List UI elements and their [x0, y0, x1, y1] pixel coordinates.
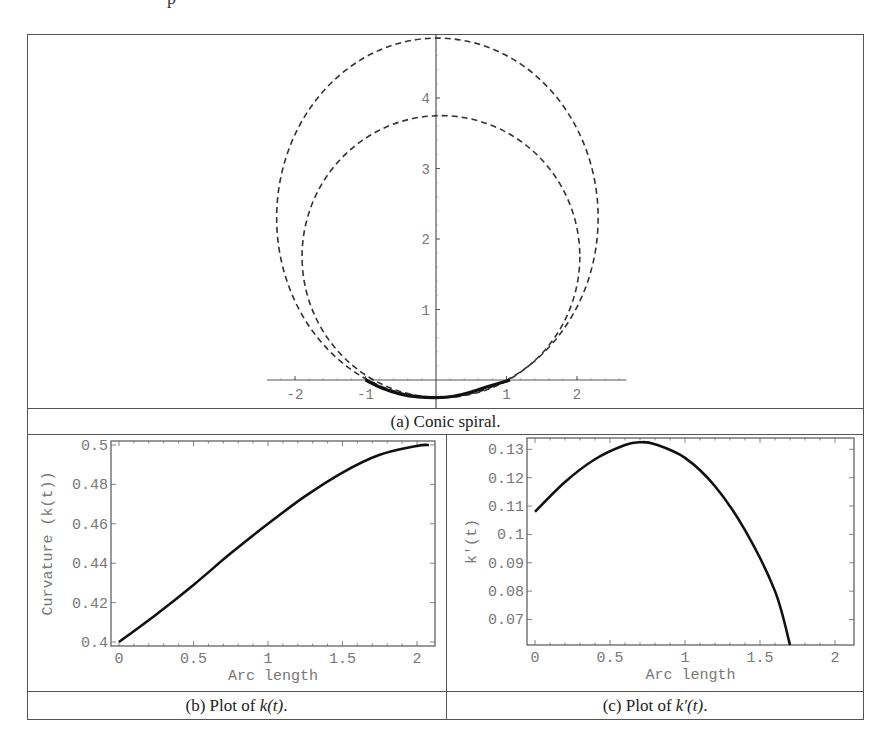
x-tick-label: 1.5 — [746, 650, 773, 667]
plot-frame — [111, 441, 435, 646]
y-tick-label: 0.1 — [497, 527, 524, 544]
x-axis-label: Arc length — [645, 667, 735, 684]
y-tick-label: 0.11 — [488, 499, 524, 516]
y-axis-label: Curvature (k(t)) — [40, 471, 57, 615]
caption-c: (c) Plot of k′(t). — [446, 693, 864, 719]
caption-b-suffix: . — [283, 696, 287, 715]
y-tick-label: 0.46 — [72, 517, 108, 534]
chart-curvature: 00.511.520.40.420.440.460.480.5Arc lengt… — [0, 0, 893, 700]
x-tick-label: 0 — [530, 650, 539, 667]
x-tick-label: 0.5 — [596, 650, 623, 667]
caption-b-prefix: (b) Plot of — [186, 696, 260, 715]
y-axis-label: k′(t) — [464, 519, 481, 564]
plot-frame — [527, 438, 854, 645]
x-tick-label: 0.5 — [180, 651, 207, 668]
y-tick-label: 0.09 — [488, 556, 524, 573]
y-tick-label: 0.4 — [81, 635, 108, 652]
x-tick-label: 1 — [680, 650, 689, 667]
caption-c-prefix: (c) Plot of — [603, 696, 676, 715]
y-tick-label: 0.42 — [72, 596, 108, 613]
y-tick-label: 0.08 — [488, 584, 524, 601]
x-axis-label: Arc length — [228, 668, 318, 685]
x-tick-label: 1.5 — [329, 651, 356, 668]
x-tick-label: 1 — [263, 651, 272, 668]
caption-c-suffix: . — [703, 696, 707, 715]
y-tick-label: 0.5 — [81, 438, 108, 455]
x-tick-label: 0 — [114, 651, 123, 668]
data-curve — [119, 445, 429, 642]
x-tick-label: 2 — [830, 650, 839, 667]
caption-b: (b) Plot of k(t). — [27, 693, 446, 719]
y-tick-label: 0.12 — [488, 471, 524, 488]
caption-b-math: k(t) — [260, 696, 284, 715]
y-tick-label: 0.13 — [488, 442, 524, 459]
data-curve — [535, 442, 790, 645]
y-tick-label: 0.44 — [72, 556, 108, 573]
caption-c-math: k′(t) — [676, 696, 703, 715]
y-tick-label: 0.07 — [488, 612, 524, 629]
x-tick-label: 2 — [412, 651, 421, 668]
y-tick-label: 0.48 — [72, 477, 108, 494]
